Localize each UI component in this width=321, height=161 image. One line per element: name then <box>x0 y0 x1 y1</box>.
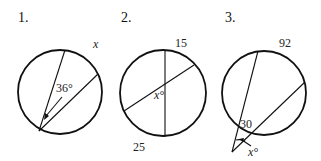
problem-2-arc-top-label: 15 <box>175 36 187 50</box>
problem-2-angle-label: x° <box>153 88 164 102</box>
problem-3-near-arc-label: 30 <box>240 117 252 131</box>
problem-3-far-arc-label: 92 <box>279 36 291 50</box>
problem-1: 1. 36° x <box>18 10 102 134</box>
problem-2-arc-bottom-label: 25 <box>133 140 145 154</box>
problem-1-number: 1. <box>18 10 29 25</box>
problem-3-number: 3. <box>225 10 236 25</box>
problem-2: 2. 15 25 x° <box>120 10 206 154</box>
problem-1-angle-label: 36° <box>56 81 73 95</box>
problem-1-arc-label: x <box>92 37 99 51</box>
problem-3-angle-label: x° <box>247 145 258 159</box>
problem-3: 3. 92 30 x° <box>222 10 306 159</box>
problem-2-number: 2. <box>121 10 132 25</box>
problem-1-label-pointer <box>46 97 62 116</box>
circle-geometry-diagram: 1. 36° x 2. 15 25 x° 3. 92 30 x° <box>0 0 321 161</box>
problem-3-secant-a <box>232 51 258 152</box>
